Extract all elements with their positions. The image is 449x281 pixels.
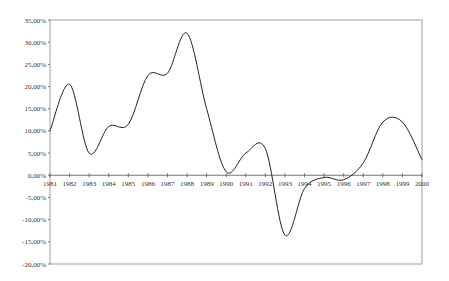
y-tick-label: 5,00% <box>28 150 46 158</box>
y-tick-label: 15,00% <box>24 105 46 113</box>
x-tick-label: 1984 <box>102 180 117 188</box>
plot-frame <box>50 20 422 264</box>
x-tick-label: 1998 <box>376 180 391 188</box>
y-tick-label: 30,00% <box>24 39 46 47</box>
y-tick-label: -10,00% <box>22 216 46 224</box>
x-tick-label: 2000 <box>415 180 430 188</box>
x-tick-label: 1993 <box>278 180 293 188</box>
x-tick-label: 1994 <box>298 180 313 188</box>
line-chart: 35,00%30,00%25,00%20,00%15,00%10,00%5,00… <box>0 0 449 281</box>
x-tick-label: 1985 <box>121 180 136 188</box>
x-tick-label: 1991 <box>239 180 254 188</box>
y-tick-label: -20,00% <box>22 261 46 269</box>
x-tick-label: 1995 <box>317 180 332 188</box>
y-tick-label: 10,00% <box>24 127 46 135</box>
y-tick-label: 0,00% <box>28 172 46 180</box>
x-tick-label: 1997 <box>356 180 371 188</box>
x-tick-label: 1986 <box>141 180 156 188</box>
x-tick-label: 1981 <box>43 180 58 188</box>
x-tick-label: 1987 <box>160 180 175 188</box>
y-axis: 35,00%30,00%25,00%20,00%15,00%10,00%5,00… <box>22 17 50 269</box>
series-line <box>50 33 422 236</box>
y-tick-label: -15,00% <box>22 238 46 246</box>
y-tick-label: 35,00% <box>24 17 46 25</box>
x-tick-label: 1989 <box>200 180 215 188</box>
y-tick-label: 25,00% <box>24 61 46 69</box>
y-tick-label: -5,00% <box>26 194 47 202</box>
x-tick-label: 1990 <box>219 180 234 188</box>
x-tick-label: 1992 <box>258 180 273 188</box>
y-tick-label: 20,00% <box>24 83 46 91</box>
x-tick-label: 1988 <box>180 180 195 188</box>
x-tick-label: 1983 <box>82 180 97 188</box>
x-tick-label: 1982 <box>63 180 78 188</box>
x-tick-label: 1999 <box>395 180 410 188</box>
x-tick-label: 1996 <box>337 180 352 188</box>
